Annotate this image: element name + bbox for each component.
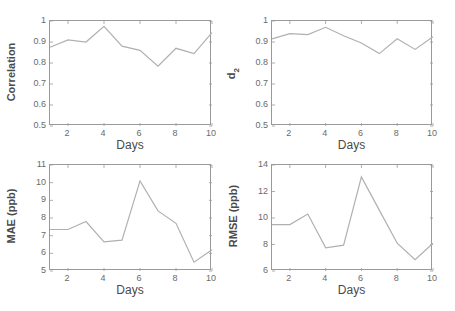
x-tick-label: 8	[165, 273, 185, 283]
x-tick-label: 2	[279, 273, 299, 283]
x-tick-label: 6	[129, 273, 149, 283]
x-tick-label: 2	[57, 273, 77, 283]
y-tick-label: 10	[22, 177, 46, 187]
plot-area	[49, 20, 211, 125]
y-axis-label: RMSE (ppb)	[227, 171, 239, 261]
x-tick-label: 6	[350, 273, 370, 283]
y-axis-label: Correlation	[5, 27, 17, 117]
y-tick-label: 7	[22, 230, 46, 240]
chart-rmse: 68101214246810DaysRMSE (ppb)	[0, 0, 455, 311]
x-tick-label: 8	[386, 128, 406, 138]
x-axis-label: Days	[90, 283, 170, 297]
chart-d2: 0.50.60.70.80.91246810Daysd2	[0, 0, 455, 311]
x-tick-label: 10	[201, 273, 221, 283]
y-tick-label: 11	[22, 159, 46, 169]
plot-area	[271, 164, 432, 270]
y-tick-label: 0.8	[22, 57, 46, 67]
x-tick-label: 6	[350, 128, 370, 138]
x-tick-label: 2	[57, 128, 77, 138]
y-tick-label: 0.7	[244, 78, 268, 88]
x-tick-label: 6	[129, 128, 149, 138]
y-tick-label: 14	[244, 159, 268, 169]
x-tick-label: 10	[422, 128, 442, 138]
x-tick-label: 8	[386, 273, 406, 283]
y-axis-label: d2	[225, 28, 240, 118]
plot-area	[49, 164, 211, 270]
y-tick-label: 0.5	[244, 120, 268, 130]
x-tick-label: 8	[165, 128, 185, 138]
plot-area	[271, 20, 432, 125]
y-axis-label: MAE (ppb)	[5, 171, 17, 261]
x-tick-label: 2	[279, 128, 299, 138]
line-series	[50, 21, 212, 126]
line-series	[272, 21, 433, 126]
y-tick-label: 8	[22, 212, 46, 222]
y-tick-label: 0.6	[22, 99, 46, 109]
y-tick-label: 6	[22, 247, 46, 257]
y-tick-label: 8	[244, 239, 268, 249]
y-tick-label: 6	[244, 265, 268, 275]
x-tick-label: 10	[422, 273, 442, 283]
chart-mae: 567891011246810DaysMAE (ppb)	[0, 0, 455, 311]
y-tick-label: 12	[244, 186, 268, 196]
line-series	[50, 165, 212, 271]
x-tick-label: 10	[201, 128, 221, 138]
y-tick-label: 10	[244, 212, 268, 222]
y-tick-label: 0.7	[22, 78, 46, 88]
y-tick-label: 0.9	[22, 36, 46, 46]
x-tick-label: 4	[93, 128, 113, 138]
y-tick-label: 0.9	[244, 36, 268, 46]
y-tick-label: 0.8	[244, 57, 268, 67]
y-tick-label: 1	[22, 15, 46, 25]
x-axis-label: Days	[312, 138, 392, 152]
x-axis-label: Days	[90, 138, 170, 152]
chart-correlation: 0.50.60.70.80.91246810DaysCorrelation	[0, 0, 455, 311]
line-series	[272, 165, 433, 271]
x-tick-label: 4	[93, 273, 113, 283]
y-tick-label: 9	[22, 194, 46, 204]
y-tick-label: 0.5	[22, 120, 46, 130]
y-tick-label: 1	[244, 15, 268, 25]
x-axis-label: Days	[312, 283, 392, 297]
y-tick-label: 0.6	[244, 99, 268, 109]
x-tick-label: 4	[315, 273, 335, 283]
x-tick-label: 4	[315, 128, 335, 138]
y-tick-label: 5	[22, 265, 46, 275]
